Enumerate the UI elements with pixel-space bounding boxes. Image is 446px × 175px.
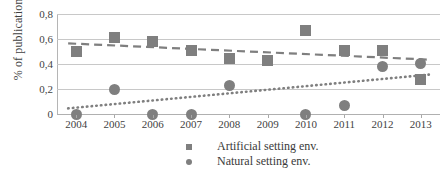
x-tick-label: 2012	[363, 118, 403, 131]
data-point-marker	[71, 46, 82, 57]
data-point-marker	[300, 25, 311, 36]
x-tick-label: 2008	[209, 118, 249, 131]
legend-label-natural: Natural setting env.	[217, 154, 311, 169]
y-tick-label: 0,2	[31, 84, 53, 95]
x-tick-label: 2007	[171, 118, 211, 131]
legend-item-artificial: Artificial setting env.	[186, 139, 426, 154]
data-point-marker	[109, 32, 120, 43]
legend-circle-marker-icon	[186, 159, 192, 165]
x-axis-tick-labels: 2004200520062007200820092010201120122013	[57, 118, 440, 134]
data-point-marker	[377, 61, 388, 72]
x-tick-label: 2011	[324, 118, 364, 131]
data-point-marker	[147, 36, 158, 47]
x-tick-label: 2009	[248, 118, 288, 131]
x-tick-label: 2004	[56, 118, 96, 131]
x-tick-label: 2005	[94, 118, 134, 131]
data-point-marker	[224, 53, 235, 64]
data-point-marker	[109, 84, 120, 95]
data-point-marker	[262, 55, 273, 66]
y-tick-label: 0,8	[31, 9, 53, 20]
data-point-marker	[339, 45, 350, 56]
x-tick-label: 2010	[286, 118, 326, 131]
legend-square-marker-icon	[186, 144, 192, 150]
x-tick-label: 2013	[401, 118, 441, 131]
data-point-marker	[339, 100, 350, 111]
trendline-artificial	[68, 43, 429, 59]
legend-label-artificial: Artificial setting env.	[217, 139, 319, 154]
trendline-natural	[68, 75, 429, 109]
y-axis-tick-labels: 00,20,40,60,8	[27, 14, 53, 114]
chart-legend: Artificial setting env. Natural setting …	[186, 139, 426, 171]
data-point-marker	[186, 45, 197, 56]
legend-item-natural: Natural setting env.	[186, 154, 426, 169]
y-tick-label: 0	[31, 109, 53, 120]
y-tick-label: 0,6	[31, 34, 53, 45]
x-tick-label: 2006	[133, 118, 173, 131]
plot-area	[57, 14, 440, 114]
y-tick-label: 0,4	[31, 59, 53, 70]
data-point-marker	[377, 45, 388, 56]
chart-container: % of publications 00,20,40,60,8 20042005…	[0, 0, 446, 175]
data-point-marker	[415, 74, 426, 85]
